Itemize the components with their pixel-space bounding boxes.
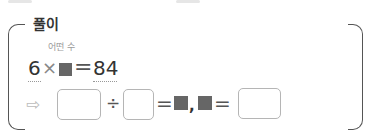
arrow-right-icon: ⇨ xyxy=(26,95,40,113)
unknown-square-icon xyxy=(174,96,188,110)
product: 84 xyxy=(93,56,118,80)
top-edge-decoration xyxy=(8,0,32,3)
equals-symbol: = xyxy=(74,55,92,79)
divide-symbol: ÷ xyxy=(106,93,120,113)
right-bracket xyxy=(348,24,363,130)
equals-symbol: = xyxy=(214,92,231,114)
section-title: 풀이 xyxy=(30,13,62,33)
left-bracket xyxy=(8,24,25,130)
multiplicand: 6 xyxy=(28,56,41,80)
equals-symbol: = xyxy=(156,92,173,114)
hint-label: 어떤 수 xyxy=(48,40,75,53)
unknown-square-icon xyxy=(198,96,212,110)
answer-input-box[interactable] xyxy=(238,88,281,119)
unknown-square-icon xyxy=(59,63,72,76)
divisor-input-box[interactable] xyxy=(123,89,154,120)
comma: , xyxy=(189,96,195,116)
top-edge-decoration xyxy=(176,0,200,3)
product-underline xyxy=(93,81,117,82)
times-symbol: × xyxy=(42,56,57,80)
dividend-input-box[interactable] xyxy=(57,89,101,120)
multiplicand-underline xyxy=(28,81,41,82)
